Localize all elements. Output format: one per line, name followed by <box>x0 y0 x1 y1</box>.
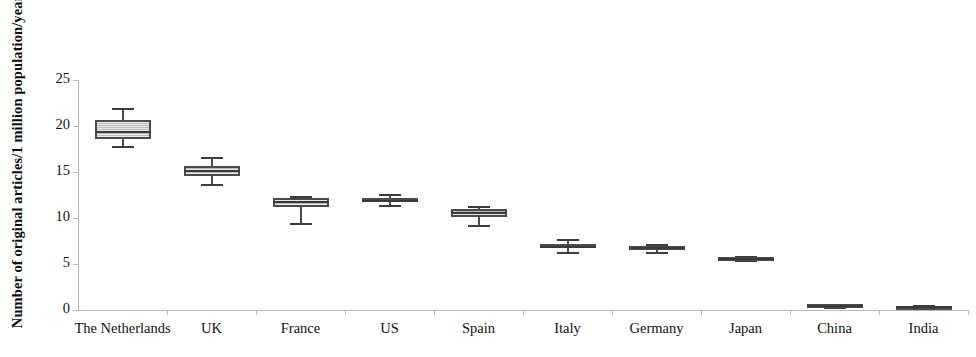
x-tick-mark <box>345 310 346 315</box>
median-line <box>718 258 774 260</box>
box-china <box>807 80 863 310</box>
y-tick-label: 5 <box>63 254 70 271</box>
x-tick-mark <box>968 310 969 315</box>
cap-lower <box>379 205 401 207</box>
median-line <box>451 212 507 214</box>
median-line <box>807 305 863 307</box>
x-axis-label-uk: UK <box>201 320 222 337</box>
x-axis-label-india: India <box>909 320 939 337</box>
y-tick-mark <box>73 172 78 173</box>
whisker-lower <box>122 139 124 146</box>
y-tick-mark <box>73 264 78 265</box>
median-line <box>95 131 151 133</box>
cap-upper <box>379 194 401 196</box>
x-tick-mark <box>523 310 524 315</box>
cap-lower <box>201 184 223 186</box>
y-tick-label: 15 <box>56 162 71 179</box>
x-tick-mark <box>612 310 613 315</box>
x-axis-label-japan: Japan <box>729 320 762 337</box>
cap-lower <box>468 225 490 227</box>
median-line <box>629 247 685 249</box>
box-us <box>362 80 418 310</box>
x-axis-label-us: US <box>380 320 399 337</box>
x-axis-label-france: France <box>281 320 320 337</box>
cap-lower <box>646 252 668 254</box>
x-tick-mark <box>790 310 791 315</box>
cap-lower <box>557 252 579 254</box>
x-tick-mark <box>256 310 257 315</box>
cap-upper <box>468 206 490 208</box>
cap-upper <box>557 239 579 241</box>
plot-area: 0510152025 The NetherlandsUKFranceUSSpai… <box>78 80 968 310</box>
y-axis-line <box>78 80 79 310</box>
median-line <box>540 246 596 248</box>
x-axis-label-china: China <box>817 320 852 337</box>
box-italy <box>540 80 596 310</box>
cap-lower <box>290 223 312 225</box>
y-tick-mark <box>73 126 78 127</box>
x-tick-mark <box>879 310 880 315</box>
whisker-lower <box>478 217 480 225</box>
median-line <box>184 170 240 172</box>
x-axis-label-spain: Spain <box>462 320 495 337</box>
median-line <box>896 306 952 308</box>
cap-upper <box>201 157 223 159</box>
x-tick-mark <box>434 310 435 315</box>
y-tick-label: 25 <box>56 70 71 87</box>
y-tick-label: 10 <box>56 208 71 225</box>
boxplot-chart: Number of original articles/1 million po… <box>0 0 976 357</box>
cap-upper <box>112 108 134 110</box>
box-france <box>273 80 329 310</box>
box-spain <box>451 80 507 310</box>
x-axis-label-germany: Germany <box>630 320 684 337</box>
y-tick-mark <box>73 80 78 81</box>
x-axis-label-the-netherlands: The Netherlands <box>74 320 170 337</box>
whisker-lower <box>211 176 213 184</box>
y-tick-mark <box>73 218 78 219</box>
median-line <box>362 200 418 202</box>
box-india <box>896 80 952 310</box>
box-germany <box>629 80 685 310</box>
box-the-netherlands <box>95 80 151 310</box>
x-tick-mark <box>167 310 168 315</box>
median-line <box>273 201 329 203</box>
box-uk <box>184 80 240 310</box>
box-japan <box>718 80 774 310</box>
x-axis-label-italy: Italy <box>554 320 581 337</box>
y-tick-label: 20 <box>56 116 71 133</box>
x-tick-mark <box>701 310 702 315</box>
y-axis-title: Number of original articles/1 million po… <box>0 0 34 340</box>
whisker-lower <box>300 207 302 223</box>
y-tick-label: 0 <box>63 300 70 317</box>
cap-lower <box>112 146 134 148</box>
y-tick-mark <box>73 310 78 311</box>
